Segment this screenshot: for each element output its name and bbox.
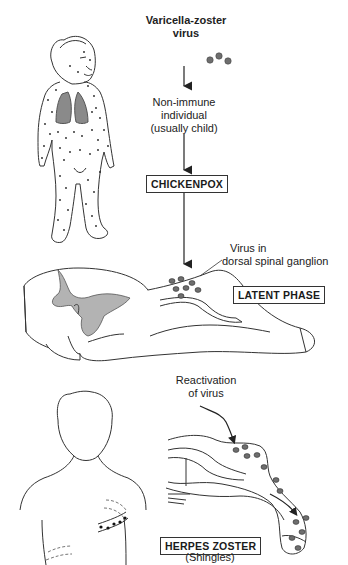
host-label-line2: individual (134, 109, 234, 122)
host-label: Non-immune individual (usually child) (134, 96, 234, 135)
reactivation-label-line2: of virus (166, 387, 246, 400)
host-label-line3: (usually child) (134, 122, 234, 135)
virus-label-line2: virus (136, 27, 236, 40)
child-illustration (38, 36, 114, 242)
ganglion-label: Virus in dorsal spinal ganglion (222, 242, 348, 268)
diagram-canvas (0, 0, 348, 565)
reactivated-virus-particles (233, 445, 309, 551)
adult-torso-illustration (20, 391, 146, 565)
shingles-dermatome-band (46, 500, 128, 560)
ganglion-label-line1: Virus in (222, 242, 348, 255)
shingles-label: (Shingles) (160, 551, 260, 564)
chickenpox-box: CHICKENPOX (146, 175, 228, 193)
virus-label: Varicella-zoster virus (136, 14, 236, 40)
virus-label-line1: Varicella-zoster (136, 14, 236, 27)
latent-phase-box: LATENT PHASE (233, 286, 325, 304)
host-label-line1: Non-immune (134, 96, 234, 109)
ganglion-label-line2: dorsal spinal ganglion (222, 255, 348, 268)
virus-particles-icon (207, 53, 231, 64)
reactivation-label: Reactivation of virus (166, 374, 246, 400)
reactivation-label-line1: Reactivation (166, 374, 246, 387)
